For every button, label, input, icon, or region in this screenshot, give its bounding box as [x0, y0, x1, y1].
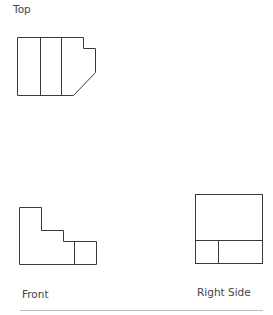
projection-drawing — [0, 0, 273, 315]
top-view-outline — [18, 38, 96, 96]
front-view-outline — [20, 208, 97, 265]
front-view-label: Front — [22, 288, 49, 300]
top-view — [18, 38, 96, 96]
right-side-outline — [196, 195, 263, 264]
front-view — [20, 208, 97, 265]
right-side-view-label: Right Side — [197, 286, 251, 298]
right-side-view — [196, 195, 263, 264]
